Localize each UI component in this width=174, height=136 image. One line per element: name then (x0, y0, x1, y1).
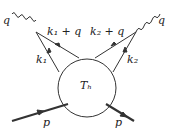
label-blob: Tₕ (80, 80, 92, 91)
photon-right-wavy-line (136, 14, 160, 32)
label-p-in: p (43, 117, 50, 128)
label-k2-plus-q: k₂ + q (90, 26, 124, 37)
label-k2: k₂ (127, 54, 138, 65)
label-k1-plus-q: k₁ + q (47, 26, 81, 37)
diagram-canvas (0, 0, 174, 136)
arrow-icon (47, 48, 51, 53)
photon-left-wavy-line (12, 13, 36, 22)
label-photon-left: q (3, 15, 10, 26)
label-k1: k₁ (36, 54, 47, 65)
label-photon-right: q (158, 15, 165, 26)
label-p-out: p (115, 117, 122, 128)
feynman-diagram: q q k₁ + q k₂ + q k₁ k₂ Tₕ p p (0, 0, 174, 136)
arrow-icon (55, 43, 60, 47)
